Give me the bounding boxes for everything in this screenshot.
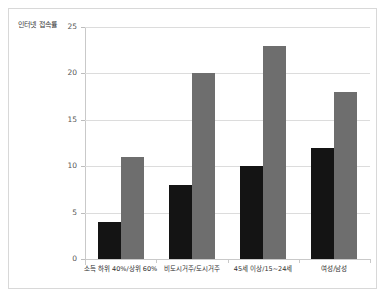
gridline: [85, 73, 370, 74]
y-tick-label: 15: [53, 116, 77, 124]
y-tick-mark: [81, 27, 85, 28]
x-tick-mark: [156, 259, 157, 263]
y-tick-mark: [81, 213, 85, 214]
y-tick-label: 25: [53, 23, 77, 31]
chart-figure: 인터넷 접속률 0510152025소득 하위 40%/상위 60%비도시거주/…: [0, 0, 386, 299]
y-axis-title: 인터넷 접속률: [18, 20, 58, 30]
x-tick-mark: [228, 259, 229, 263]
y-tick-mark: [81, 259, 85, 260]
bar: [334, 92, 357, 259]
y-tick-label: 5: [53, 209, 77, 217]
y-tick-label: 10: [53, 162, 77, 170]
gridline: [85, 27, 370, 28]
bar: [240, 166, 263, 259]
plot-area: [85, 27, 370, 259]
x-tick-mark: [299, 259, 300, 263]
y-tick-mark: [81, 120, 85, 121]
gridline: [85, 120, 370, 121]
y-tick-label: 0: [53, 255, 77, 263]
x-tick-mark: [370, 259, 371, 263]
bar: [263, 46, 286, 259]
y-tick-mark: [81, 166, 85, 167]
y-tick-mark: [81, 73, 85, 74]
y-tick-label: 20: [53, 69, 77, 77]
bar: [192, 73, 215, 259]
bar: [121, 157, 144, 259]
x-category-label: 여성/남성: [274, 265, 386, 274]
bar: [98, 222, 121, 259]
bar: [169, 185, 192, 259]
bar: [311, 148, 334, 259]
